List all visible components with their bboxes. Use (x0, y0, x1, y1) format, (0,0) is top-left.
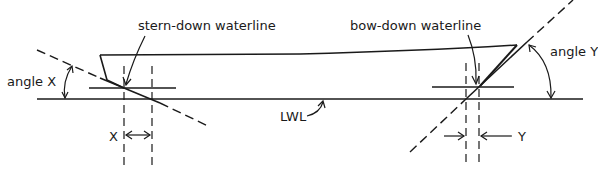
stern-waterline-pointer (126, 36, 145, 84)
hull-sheer-line (100, 45, 517, 55)
x-dimension-label: X (109, 130, 118, 143)
stern-down-line-dashed-lower (160, 103, 208, 126)
y-dimension-label: Y (518, 130, 526, 143)
bow-waterline-pointer (468, 35, 476, 82)
bow-down-line-dashed-upper (527, 0, 573, 42)
bow-down-line-dashed-lower (410, 99, 466, 152)
lwl-label: LWL (280, 110, 306, 123)
bow-down-line-solid (466, 42, 527, 99)
bow-waterline-label: bow-down waterline (350, 19, 481, 32)
angle-x-label: angle X (7, 75, 56, 88)
angle-x-arc (64, 66, 72, 98)
stern-waterline-label: stern-down waterline (138, 19, 276, 32)
angle-y-arc (529, 45, 551, 98)
angle-y-label: angle Y (550, 45, 598, 58)
